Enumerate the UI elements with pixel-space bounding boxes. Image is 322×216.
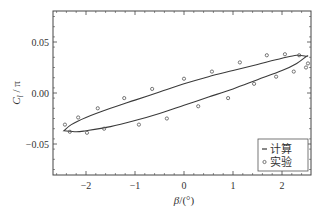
experimental-point [275, 75, 278, 78]
y-axis-title: Cl / π [10, 81, 25, 105]
calculated-curve [64, 55, 308, 132]
experimental-point [265, 54, 268, 57]
y-tick-label: 0.00 [32, 88, 50, 99]
experimental-point [63, 123, 66, 126]
x-tick-label: 0 [182, 180, 187, 191]
x-tick-label: 1 [231, 180, 236, 191]
y-tick-label: 0.05 [32, 37, 50, 48]
chart: −2−1012 0.050.00−0.05 β/(°) Cl / π 计算 实验 [0, 0, 322, 216]
experimental-point [306, 62, 309, 65]
experimental-point [137, 123, 140, 126]
experimental-point [227, 97, 230, 100]
experimental-point [96, 107, 99, 110]
legend-label-exp: 实验 [270, 155, 292, 169]
calculated-loop [64, 55, 308, 132]
experimental-point [151, 87, 154, 90]
x-tick-label: −2 [81, 180, 92, 191]
experimental-point [182, 77, 185, 80]
y-tick-label: −0.05 [26, 139, 49, 150]
experimental-point [210, 70, 213, 73]
experimental-point [85, 131, 88, 134]
experimental-point [304, 66, 307, 69]
experimental-point [165, 117, 168, 120]
experimental-point [123, 97, 126, 100]
x-tick-label: −1 [130, 180, 141, 191]
x-tick-label: 2 [280, 180, 285, 191]
experimental-point [292, 70, 295, 73]
svg-text:Cl / π: Cl / π [10, 81, 25, 105]
experimental-points [63, 53, 309, 135]
experimental-point [77, 116, 80, 119]
experimental-point [252, 82, 255, 85]
legend: 计算 实验 [258, 139, 308, 171]
experimental-point [283, 53, 286, 56]
experimental-point [197, 105, 200, 108]
y-tick-labels: 0.050.00−0.05 [26, 37, 49, 150]
x-axis-title: β/(°) [173, 194, 195, 207]
x-tick-labels: −2−1012 [81, 180, 285, 191]
experimental-point [238, 61, 241, 64]
legend-label-calc: 计算 [270, 142, 292, 156]
